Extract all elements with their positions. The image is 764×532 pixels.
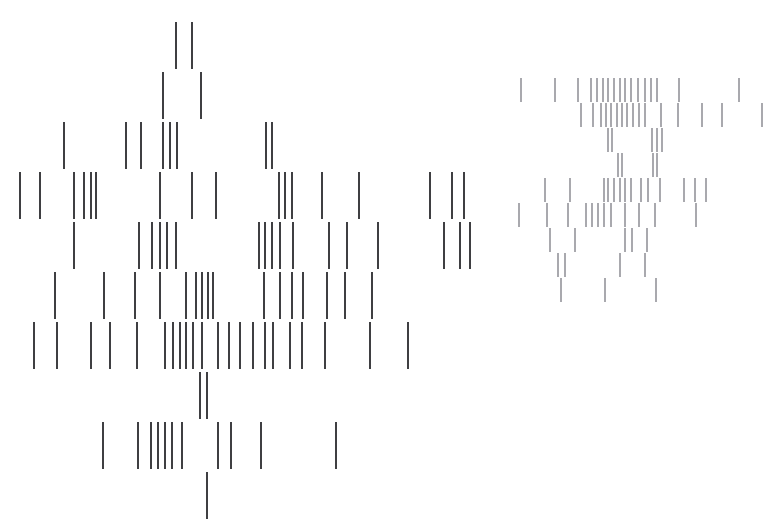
chart-figure: [0, 0, 764, 532]
plot-background: [0, 0, 764, 532]
tick-raster-plot: [0, 0, 764, 532]
